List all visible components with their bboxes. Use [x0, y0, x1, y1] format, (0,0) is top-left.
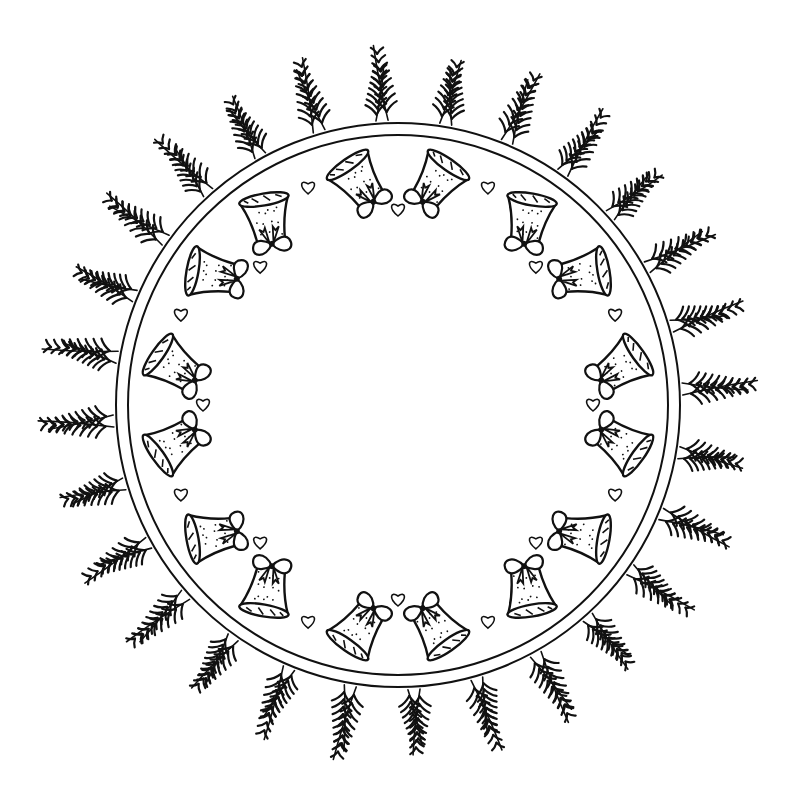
bell-with-bow: [182, 505, 250, 565]
heart-icon: [392, 594, 405, 606]
heart-icon: [197, 399, 210, 411]
pine-branch: [621, 563, 696, 627]
wreath-svg: [0, 0, 788, 811]
bell-with-bow: [580, 404, 658, 479]
bell-with-bow: [324, 146, 399, 224]
bell-with-bow: [182, 245, 250, 305]
pine-branch: [556, 107, 620, 182]
heart-icon: [482, 616, 495, 628]
heart-icon: [174, 309, 187, 321]
heart-icon: [392, 204, 405, 216]
pine-branch: [245, 662, 297, 740]
heart-icon: [587, 399, 600, 411]
bell-with-bow: [580, 331, 658, 406]
pine-branch: [75, 529, 153, 585]
heart-icon: [302, 182, 315, 194]
pine-branch: [294, 64, 334, 133]
pine-branch: [108, 189, 175, 247]
heart-icon: [174, 489, 187, 501]
heart-icon: [254, 261, 267, 273]
heart-icon: [529, 537, 542, 549]
bell-with-bow: [546, 245, 614, 305]
bell-with-bow: [397, 587, 472, 665]
pine-branch: [371, 45, 398, 121]
bell-with-bow: [238, 553, 298, 621]
bells: [139, 146, 658, 665]
heart-icon: [302, 616, 315, 628]
bell-with-bow: [238, 189, 298, 257]
bell-with-bow: [397, 146, 472, 224]
bell-with-bow: [139, 331, 217, 406]
heart-icon: [609, 489, 622, 501]
pine-branch: [67, 469, 126, 506]
bell-with-bow: [139, 404, 217, 479]
heart-icon: [609, 309, 622, 321]
heart-icon: [482, 182, 495, 194]
bell-with-bow: [498, 189, 558, 257]
wreath-illustration: [0, 0, 788, 811]
pine-branches: [38, 45, 758, 763]
pine-branch: [153, 125, 220, 198]
bell-with-bow: [498, 553, 558, 621]
bell-with-bow: [324, 587, 399, 665]
hearts: [174, 182, 621, 628]
heart-icon: [529, 261, 542, 273]
bell-with-bow: [546, 505, 614, 565]
heart-icon: [254, 537, 267, 549]
